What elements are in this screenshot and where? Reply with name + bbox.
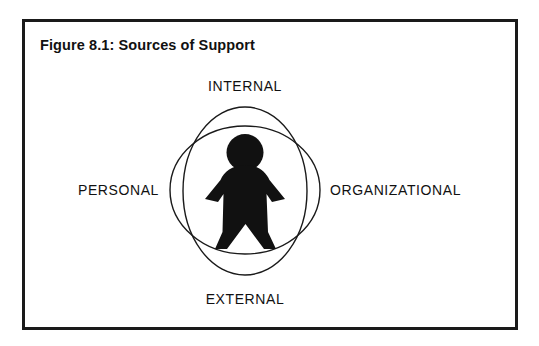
- person-body-icon: [205, 165, 285, 249]
- label-personal: PERSONAL: [78, 182, 159, 198]
- venn-diagram: INTERNAL EXTERNAL PERSONAL ORGANIZATIONA…: [0, 0, 539, 346]
- label-external: EXTERNAL: [0, 291, 490, 307]
- label-internal: INTERNAL: [0, 78, 490, 94]
- label-organizational: ORGANIZATIONAL: [330, 182, 461, 198]
